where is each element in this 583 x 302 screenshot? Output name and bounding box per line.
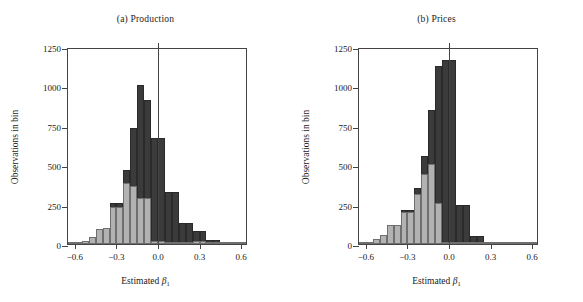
y-tick-label-a: 0 — [57, 241, 62, 251]
x-tick-label-b: 0.6 — [526, 252, 537, 262]
panel-b-x-axis-title: Estimated β1 — [291, 276, 582, 287]
x-tick-label-b: 0.0 — [443, 252, 454, 262]
panel-b-y-axis-title: Observations in bin — [299, 48, 313, 245]
histogram-bar-dark — [463, 205, 470, 244]
x-tick-b — [532, 244, 533, 249]
panel-production: (a) Production Observations in bin 02505… — [0, 0, 291, 302]
x-tick-a — [158, 244, 159, 249]
x-tick-label-a: 0.6 — [235, 252, 246, 262]
histogram-bar-dark — [449, 60, 456, 244]
histogram-bar-light — [518, 242, 525, 244]
histogram-bar-light — [456, 242, 463, 244]
beta-subscript-a: 1 — [166, 280, 169, 287]
histogram-bar-dark — [456, 205, 463, 244]
histogram-bar-light — [497, 242, 504, 244]
x-tick-b — [366, 244, 367, 249]
y-tick-label-a: 750 — [48, 123, 62, 133]
histogram-bar-light — [477, 242, 484, 244]
histogram-bar-light — [401, 212, 408, 244]
histogram-bar-light — [179, 242, 186, 244]
y-tick-label-a: 1250 — [43, 44, 61, 54]
histogram-bar-light — [130, 186, 137, 244]
panel-prices: (b) Prices Observations in bin 025050075… — [291, 0, 582, 302]
y-tick-b — [353, 207, 359, 208]
y-tick-b — [353, 88, 359, 89]
histogram-bar-light — [387, 225, 394, 244]
y-tick-label-b: 1250 — [334, 44, 352, 54]
histogram-bar-light — [407, 212, 414, 244]
histogram-bar-light — [75, 242, 82, 244]
x-tick-b — [449, 244, 450, 249]
x-tick-label-a: −0.6 — [67, 252, 83, 262]
panel-a-bars — [68, 49, 246, 244]
y-tick-a — [62, 88, 68, 89]
histogram-bar-dark — [186, 223, 193, 244]
x-tick-label-b: 0.3 — [485, 252, 496, 262]
y-tick-a — [62, 49, 68, 50]
panel-a-y-axis-title-text: Observations in bin — [10, 109, 20, 183]
x-tick-label-b: −0.6 — [358, 252, 374, 262]
histogram-bar-light — [193, 241, 200, 244]
y-tick-b — [353, 246, 359, 247]
histogram-bar-light — [421, 174, 428, 244]
y-tick-a — [62, 246, 68, 247]
histogram-bar-light — [96, 229, 103, 244]
y-tick-label-a: 250 — [48, 202, 62, 212]
panel-b-bars — [359, 49, 537, 244]
histogram-bar-light — [359, 242, 366, 244]
histogram-bar-dark — [151, 138, 158, 244]
histogram-bar-light — [158, 241, 165, 244]
histogram-bar-light — [68, 242, 75, 244]
y-tick-label-b: 500 — [339, 162, 353, 172]
histogram-bar-light — [103, 228, 110, 244]
histogram-bar-light — [366, 242, 373, 244]
x-tick-b — [491, 244, 492, 249]
histogram-bar-light — [463, 242, 470, 244]
y-tick-b — [353, 167, 359, 168]
x-tick-a — [200, 244, 201, 249]
y-tick-label-a: 500 — [48, 162, 62, 172]
y-tick-label-b: 1000 — [334, 83, 352, 93]
histogram-bar-light — [504, 242, 511, 244]
histogram-bar-light — [470, 242, 477, 244]
y-tick-b — [353, 49, 359, 50]
histogram-bar-dark — [165, 192, 172, 244]
y-tick-label-a: 1000 — [43, 83, 61, 93]
x-tick-a — [116, 244, 117, 249]
histogram-bar-light — [511, 242, 518, 244]
histogram-bar-light — [144, 198, 151, 244]
histogram-bar-light — [484, 242, 491, 244]
histogram-bar-light — [82, 241, 89, 244]
beta-subscript-b: 1 — [457, 280, 460, 287]
histogram-bar-light — [234, 242, 241, 244]
panel-a-title: (a) Production — [0, 14, 291, 24]
histogram-bar-light — [213, 242, 220, 244]
histogram-bar-light — [227, 242, 234, 244]
histogram-bar-light — [394, 225, 401, 244]
histogram-bar-light — [373, 239, 380, 244]
x-tick-label-a: 0.0 — [152, 252, 163, 262]
y-tick-label-b: 250 — [339, 202, 353, 212]
histogram-bar-dark — [179, 223, 186, 244]
histogram-bar-light — [428, 164, 435, 244]
histogram-bar-light — [220, 242, 227, 244]
panel-a-plot-area: 025050075010001250 −0.6−0.30.00.30.6 — [67, 48, 247, 245]
histogram-bar-dark — [442, 60, 449, 244]
histogram-bar-light — [110, 207, 117, 244]
y-tick-a — [62, 128, 68, 129]
x-tick-a — [75, 244, 76, 249]
y-tick-label-b: 0 — [348, 241, 353, 251]
y-tick-label-b: 750 — [339, 123, 353, 133]
histogram-bar-light — [442, 242, 449, 244]
x-tick-label-b: −0.3 — [399, 252, 415, 262]
x-tick-a — [241, 244, 242, 249]
histogram-bar-light — [491, 242, 498, 244]
y-tick-a — [62, 207, 68, 208]
panel-a-x-axis-title: Estimated β1 — [0, 276, 291, 287]
y-tick-a — [62, 167, 68, 168]
x-tick-label-a: −0.3 — [108, 252, 124, 262]
histogram-bar-light — [165, 242, 172, 244]
histogram-bar-light — [449, 242, 456, 244]
histogram-bar-light — [151, 241, 158, 244]
zero-reference-line — [449, 43, 450, 244]
